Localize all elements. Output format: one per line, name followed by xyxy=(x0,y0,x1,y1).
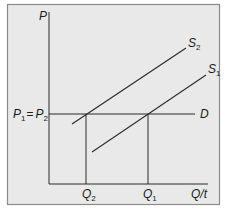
diagram-canvas: P Q/t S2 S1 D P1=P2 Q2 Q1 xyxy=(0,0,234,219)
price-equality-label: P1=P2 xyxy=(13,107,49,123)
supply-demand-diagram: P Q/t S2 S1 D P1=P2 Q2 Q1 xyxy=(0,0,234,219)
diagram-frame xyxy=(8,5,220,205)
y-axis-label: P xyxy=(39,9,47,23)
demand-label: D xyxy=(200,107,209,121)
x-axis-label: Q/t xyxy=(191,187,208,201)
